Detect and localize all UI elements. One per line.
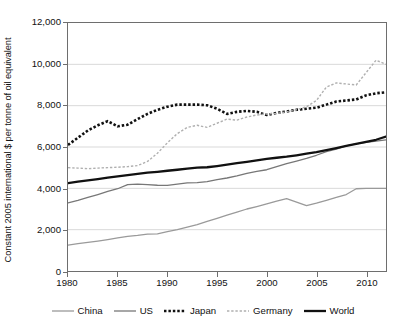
- x-tick-mark: [217, 272, 218, 277]
- x-tick-mark: [267, 272, 268, 277]
- legend-label: Germany: [253, 305, 292, 316]
- y-tick-label: 12,000: [1, 17, 67, 27]
- y-tick-label: 4,000: [1, 184, 67, 194]
- x-tick-mark: [167, 272, 168, 277]
- legend-item-japan[interactable]: Japan: [164, 305, 216, 316]
- x-tick-mark: [67, 272, 68, 277]
- series-line-china: [68, 188, 386, 245]
- legend-swatch-germany-icon: [227, 306, 249, 316]
- series-canvas: [68, 23, 386, 271]
- legend-item-germany[interactable]: Germany: [227, 305, 292, 316]
- x-tick-label: 1985: [94, 277, 140, 288]
- y-tick-label: 10,000: [1, 59, 67, 69]
- legend-label: World: [330, 305, 355, 316]
- x-tick-mark: [317, 272, 318, 277]
- y-tick-label: 8,000: [1, 100, 67, 110]
- series-line-us: [68, 140, 386, 203]
- legend-item-us[interactable]: US: [114, 305, 153, 316]
- legend-swatch-us-icon: [114, 306, 136, 316]
- legend-swatch-japan-icon: [164, 306, 186, 316]
- series-line-world: [68, 137, 386, 184]
- chart-legend: ChinaUSJapanGermanyWorld: [0, 305, 406, 316]
- x-tick-label: 1995: [194, 277, 240, 288]
- legend-label: China: [78, 305, 103, 316]
- x-tick-label: 2010: [344, 277, 390, 288]
- plot-area: [67, 22, 387, 272]
- legend-swatch-world-icon: [304, 306, 326, 316]
- x-tick-label: 1990: [144, 277, 190, 288]
- x-tick-label: 2005: [294, 277, 340, 288]
- chart-figure: Constant 2005 international $ per tonne …: [0, 0, 406, 334]
- series-line-japan: [68, 92, 386, 145]
- legend-item-world[interactable]: World: [304, 305, 355, 316]
- y-tick-label: 2,000: [1, 225, 67, 235]
- x-tick-mark: [117, 272, 118, 277]
- legend-item-china[interactable]: China: [52, 305, 103, 316]
- y-tick-label: 0: [1, 267, 67, 277]
- legend-swatch-china-icon: [52, 306, 74, 316]
- legend-label: Japan: [190, 305, 216, 316]
- x-tick-label: 1980: [44, 277, 90, 288]
- y-tick-label: 6,000: [1, 142, 67, 152]
- x-tick-mark: [367, 272, 368, 277]
- x-tick-label: 2000: [244, 277, 290, 288]
- legend-label: US: [140, 305, 153, 316]
